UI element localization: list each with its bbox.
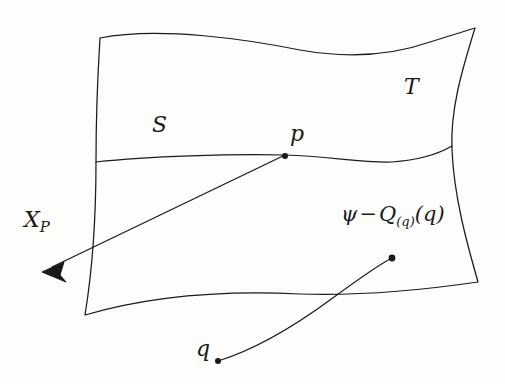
curve-map-label: ψ−Q(q)(q) [341, 204, 445, 228]
point-label-p: p [290, 123, 304, 145]
q-operator-argument: (q) [415, 202, 445, 226]
manifold-diagram-figure: S T p q XP ψ−Q(q)(q) [0, 0, 505, 384]
tangent-vector-base: X [24, 207, 40, 232]
tangent-vector-label: XP [24, 209, 50, 235]
geodesic-curve-path [218, 258, 392, 361]
tangent-vector-subscript: P [40, 218, 50, 236]
point-label-q: q [196, 338, 210, 360]
q-operator-subscript: (q) [396, 214, 415, 229]
tangent-vector-arrowhead [42, 262, 66, 282]
psi-symbol: ψ [341, 202, 357, 226]
region-label-s: S [152, 114, 167, 136]
tangent-vector-shaft [52, 155, 285, 267]
region-label-t: T [404, 76, 419, 98]
curve-endpoint-dot [389, 255, 396, 262]
point-p-dot [282, 153, 288, 159]
point-q-dot [215, 358, 221, 364]
surface-outline-path [85, 28, 478, 315]
tangent-vector-arrow [42, 155, 285, 282]
diagram-canvas [0, 0, 505, 384]
minus-symbol: − [357, 202, 379, 226]
q-operator-symbol: Q [379, 202, 396, 226]
